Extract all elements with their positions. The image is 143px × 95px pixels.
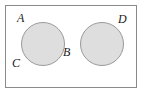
label-c: C: [12, 57, 20, 69]
venn-diagram-figure: A B C D: [0, 0, 143, 95]
label-a: A: [17, 12, 24, 24]
set-circle-left: [21, 22, 65, 66]
label-b: B: [63, 46, 70, 58]
label-d: D: [118, 13, 127, 25]
set-circle-right: [80, 22, 124, 66]
